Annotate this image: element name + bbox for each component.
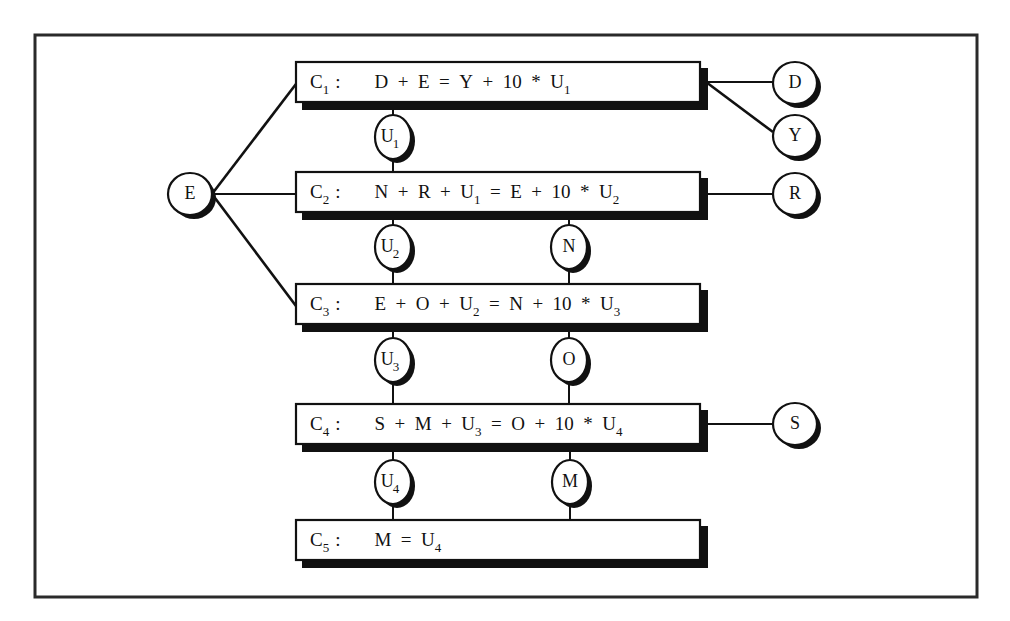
constraint-box-c4: C4:S + M + U3 = O + 10 * U4 [296,404,708,452]
variable-node-u1: U1 [375,115,415,163]
variable-node-m: M [552,460,592,508]
edge-c1-y [706,82,773,132]
variable-node-u3: U3 [375,338,415,386]
variable-node-s: S [773,403,821,449]
variable-node-u4: U4 [375,460,415,508]
node-label: Y [789,125,802,145]
constraint-box-c1: C1:D + E = Y + 10 * U1 [296,62,708,110]
node-label: N [563,236,576,256]
variable-node-n: N [551,225,591,273]
edge-e-c1 [212,84,296,194]
constraint-boxes-layer: C1:D + E = Y + 10 * U1C2:N + R + U1 = E … [296,62,708,568]
node-label: E [185,183,196,203]
variable-node-d: D [773,62,821,108]
node-label: S [790,413,800,433]
variable-node-y: Y [773,115,821,161]
edge-e-c3 [212,194,296,306]
variable-node-e: E [168,173,216,219]
variable-node-r: R [773,173,821,219]
box-frame [296,520,700,560]
constraint-box-c5: C5:M = U4 [296,520,708,568]
node-label: D [789,72,802,92]
constraint-box-c3: C3:E + O + U2 = N + 10 * U3 [296,284,708,332]
node-label: O [563,349,576,369]
constraint-network-diagram: C1:D + E = Y + 10 * U1C2:N + R + U1 = E … [0,0,1010,621]
node-label: R [789,183,801,203]
constraint-box-c2: C2:N + R + U1 = E + 10 * U2 [296,172,708,220]
node-label: M [562,471,578,491]
variable-node-o: O [551,338,591,386]
variable-node-u2: U2 [375,225,415,273]
